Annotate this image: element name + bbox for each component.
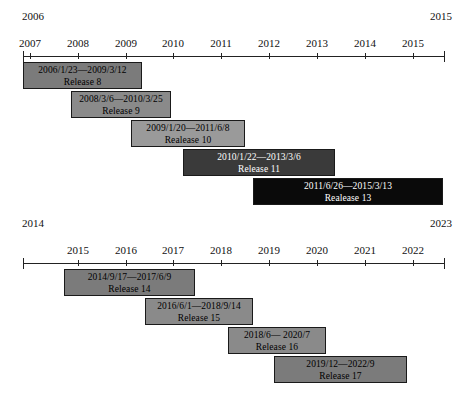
gantt-bar-range-text: 2006/1/23—2009/3/12 [38, 64, 126, 76]
axis-tick-label-top-2010: 2010 [162, 37, 184, 49]
gantt-bar-range-text: 2009/1/20—2011/6/8 [146, 122, 229, 134]
axis-tick-bottom-2021 [365, 260, 366, 266]
axis-tick-top-2010 [173, 53, 174, 59]
gantt-bar-top-5[interactable]: 2011/6/26—2015/3/13Realease 13 [253, 178, 443, 205]
axis-tick-label-bottom-2020: 2020 [306, 244, 328, 256]
axis-tick-label-bottom-2018: 2018 [210, 244, 232, 256]
gantt-bar-top-3[interactable]: 2009/1/20—2011/6/8Realease 10 [131, 120, 245, 147]
axis-tick-bottom-2017 [173, 260, 174, 266]
axis-tick-top-2013 [317, 53, 318, 59]
range-end-label-bottom: 2023 [430, 217, 452, 229]
x-axis-bottom: 20152016201720182019202020212022 [23, 263, 445, 264]
gantt-bar-label: Release 16 [256, 341, 298, 353]
gantt-bar-label: Release 11 [238, 163, 280, 175]
timeline-chart-top: 2006 2015 200720082009201020112012201320… [0, 0, 472, 215]
axis-tick-label-top-2011: 2011 [210, 37, 232, 49]
axis-tick-label-bottom-2019: 2019 [258, 244, 280, 256]
gantt-bar-range-text: 2010/1/22—2013/3/6 [217, 151, 301, 163]
axis-tick-label-top-2008: 2008 [67, 37, 89, 49]
gantt-bar-range-text: 2014/9/17—2017/6/9 [88, 271, 172, 283]
axis-tick-label-top-2013: 2013 [306, 37, 328, 49]
gantt-bar-range-text: 2011/6/26—2015/3/13 [304, 180, 392, 192]
range-start-label-top: 2006 [22, 10, 44, 22]
axis-start-cap-top [23, 51, 24, 62]
gantt-bar-top-1[interactable]: 2006/1/23—2009/3/12Release 8 [23, 62, 142, 89]
gantt-bar-top-2[interactable]: 2008/3/6—2010/3/25Release 9 [71, 91, 171, 118]
axis-tick-bottom-2016 [126, 260, 127, 266]
axis-tick-top-2011 [221, 53, 222, 59]
gantt-bar-range-text: 2019/12—2022/9 [306, 358, 374, 370]
gantt-bar-label: Release 15 [178, 312, 220, 324]
range-start-label-bottom: 2014 [22, 217, 44, 229]
axis-end-cap-bottom [444, 258, 445, 269]
axis-tick-label-top-2012: 2012 [258, 37, 280, 49]
axis-tick-label-bottom-2022: 2022 [402, 244, 424, 256]
gantt-bar-range-text: 2016/6/1—2018/9/14 [157, 300, 241, 312]
range-end-label-top: 2015 [430, 10, 452, 22]
axis-tick-bottom-2020 [317, 260, 318, 266]
axis-tick-label-top-2015: 2015 [402, 37, 424, 49]
gantt-bar-bottom-3[interactable]: 2018/6— 2020/7Release 16 [228, 327, 326, 354]
axis-tick-label-bottom-2016: 2016 [115, 244, 137, 256]
axis-tick-top-2014 [365, 53, 366, 59]
axis-tick-label-top-2007: 2007 [19, 37, 41, 49]
gantt-bar-label: Release 9 [102, 105, 140, 117]
axis-tick-label-bottom-2021: 2021 [354, 244, 376, 256]
axis-tick-bottom-2018 [221, 260, 222, 266]
timeline-chart-bottom: 2014 2023 201520162017201820192020202120… [0, 215, 472, 400]
gantt-bar-label: Realease 10 [165, 134, 212, 146]
axis-tick-label-top-2014: 2014 [354, 37, 376, 49]
axis-tick-label-bottom-2017: 2017 [162, 244, 184, 256]
axis-tick-label-top-2009: 2009 [115, 37, 137, 49]
axis-end-cap-top [444, 51, 445, 62]
gantt-bar-label: Release 8 [64, 76, 102, 88]
gantt-bar-bottom-4[interactable]: 2019/12—2022/9Release 17 [274, 356, 407, 383]
x-axis-top: 200720082009201020112012201320142015 [23, 56, 445, 57]
axis-tick-top-2009 [126, 53, 127, 59]
gantt-bar-bottom-2[interactable]: 2016/6/1—2018/9/14Release 15 [145, 298, 253, 325]
gantt-bar-label: Release 14 [108, 283, 150, 295]
gantt-bar-label: Realease 13 [325, 192, 372, 204]
axis-tick-bottom-2015 [78, 260, 79, 266]
gantt-bar-bottom-1[interactable]: 2014/9/17—2017/6/9Release 14 [64, 269, 195, 296]
axis-start-cap-bottom [23, 258, 24, 269]
axis-tick-top-2012 [269, 53, 270, 59]
axis-tick-top-2007 [30, 53, 31, 59]
axis-tick-bottom-2022 [413, 260, 414, 266]
axis-tick-top-2015 [413, 53, 414, 59]
axis-tick-label-bottom-2015: 2015 [67, 244, 89, 256]
axis-tick-top-2008 [78, 53, 79, 59]
gantt-bar-top-4[interactable]: 2010/1/22—2013/3/6Release 11 [183, 149, 335, 176]
axis-tick-bottom-2019 [269, 260, 270, 266]
gantt-bar-label: Release 17 [319, 370, 361, 382]
gantt-bar-range-text: 2008/3/6—2010/3/25 [79, 93, 163, 105]
gantt-bar-range-text: 2018/6— 2020/7 [244, 329, 310, 341]
